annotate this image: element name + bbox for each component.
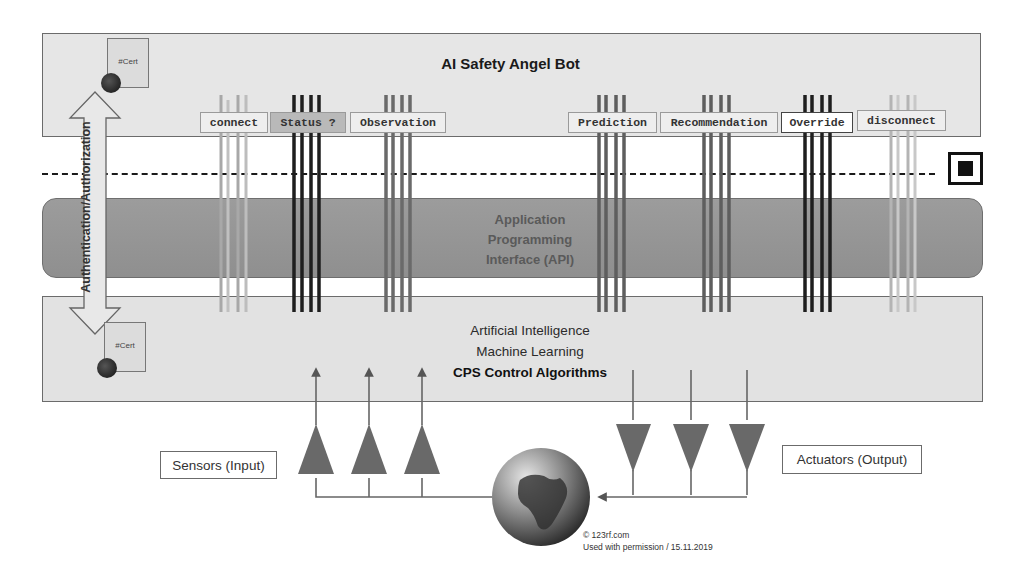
api-call-connect[interactable]: connect	[200, 112, 268, 133]
signal-lines	[0, 0, 1021, 578]
seal-icon	[97, 358, 117, 378]
api-call-recommendation[interactable]: Recommendation	[660, 112, 778, 133]
sensor-triangles	[298, 424, 440, 474]
api-call-prediction[interactable]: Prediction	[568, 112, 657, 133]
api-call-disconnect[interactable]: disconnect	[857, 110, 946, 131]
seal-icon	[101, 73, 121, 93]
auth-label: Authentication/Authorization	[79, 92, 93, 322]
actuator-triangles	[616, 424, 765, 472]
api-call-observation[interactable]: Observation	[350, 112, 446, 133]
api-call-status[interactable]: Status ?	[270, 112, 346, 133]
api-call-override[interactable]: Override	[781, 112, 853, 133]
auth-double-arrow	[70, 92, 120, 334]
